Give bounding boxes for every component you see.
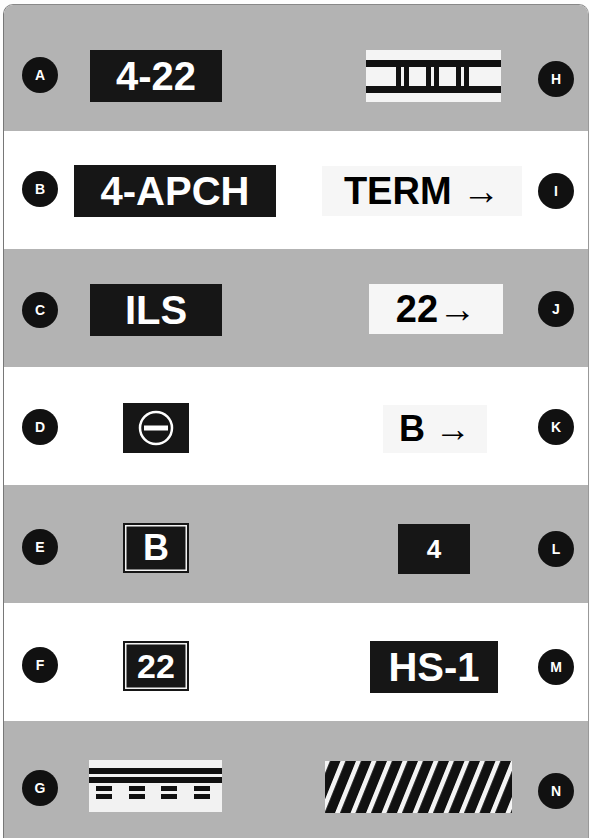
sign-runway-holding-4-22: 4-22 (90, 50, 222, 102)
sign-runway-end-hatched (325, 761, 512, 813)
row-a-h: A 4-22 H (4, 5, 588, 131)
badge-f: F (22, 647, 58, 683)
sign-direction-taxiway-b: B → (383, 405, 487, 453)
diagonal-stripes-icon (325, 761, 512, 813)
sign-hot-spot-hs-1: HS-1 (370, 641, 498, 693)
row-e-l: E B 4 L (4, 485, 588, 603)
badge-j: J (538, 291, 574, 327)
sign-taxiway-location-b: B (123, 523, 189, 573)
sign-destination-term: TERM → (322, 166, 522, 216)
sign-ils-critical-area-boundary (366, 50, 501, 102)
sign-ils-critical-area: ILS (90, 284, 222, 336)
no-entry-icon (136, 408, 176, 448)
badge-i: I (538, 173, 574, 209)
badge-m: M (538, 649, 574, 685)
row-c-j: C ILS 22→ J (4, 249, 588, 367)
marking-runway-holding-position (89, 760, 222, 812)
row-f-m: F 22 HS-1 M (4, 603, 588, 721)
row-b-i: B 4-APCH TERM → I (4, 131, 588, 249)
sign-reference-sheet: A 4-22 H B 4-APCH TERM → I C ILS 22→ J (3, 4, 589, 838)
sign-runway-location-22: 22 (123, 641, 189, 691)
row-g-n: G N (4, 721, 588, 838)
hold-line-marking-icon (89, 760, 222, 812)
badge-g: G (22, 770, 58, 806)
sign-approach-area-4-apch: 4-APCH (74, 165, 276, 217)
badge-h: H (538, 61, 574, 97)
ladder-marking-icon (366, 50, 501, 102)
badge-e: E (22, 529, 58, 565)
row-d-k: D B → K (4, 367, 588, 485)
sign-direction-22: 22→ (369, 284, 503, 334)
badge-l: L (538, 531, 574, 567)
badge-a: A (22, 57, 58, 93)
sign-runway-location-4: 4 (398, 524, 470, 574)
badge-k: K (538, 409, 574, 445)
badge-n: N (538, 773, 574, 809)
badge-d: D (22, 409, 58, 445)
badge-b: B (22, 171, 58, 207)
badge-c: C (22, 292, 58, 328)
sign-no-entry (123, 403, 189, 453)
